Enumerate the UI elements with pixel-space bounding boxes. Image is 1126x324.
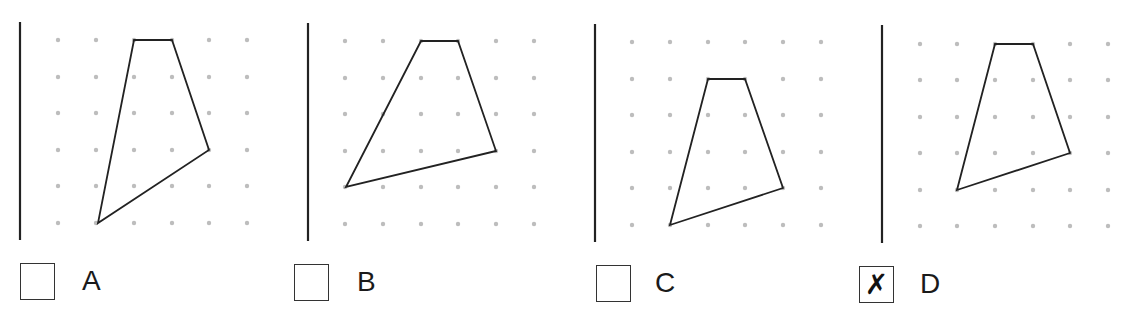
answer-options-figure [0, 0, 1126, 324]
option-panel-d [882, 25, 1110, 243]
option-panel-c [595, 24, 823, 242]
checkbox-option-d[interactable]: ✗ [859, 266, 894, 303]
option-label-d: D [920, 270, 940, 298]
quadrilateral-shape [957, 44, 1070, 190]
option-label-c: C [655, 269, 675, 297]
dot-grid [918, 42, 1110, 228]
dot-grid [56, 38, 249, 225]
checkbox-option-a[interactable] [20, 263, 55, 300]
dot-grid [343, 39, 536, 226]
option-label-a: A [82, 267, 101, 295]
checkbox-option-c[interactable] [596, 265, 631, 302]
option-panel-a [20, 22, 249, 240]
dot-grid [630, 40, 823, 227]
cross-mark-icon: ✗ [865, 271, 888, 299]
quadrilateral-shape [670, 79, 783, 225]
checkbox-option-b[interactable] [294, 264, 329, 301]
quadrilateral-shape [98, 40, 209, 223]
option-panel-b [308, 23, 536, 241]
option-label-b: B [357, 268, 376, 296]
